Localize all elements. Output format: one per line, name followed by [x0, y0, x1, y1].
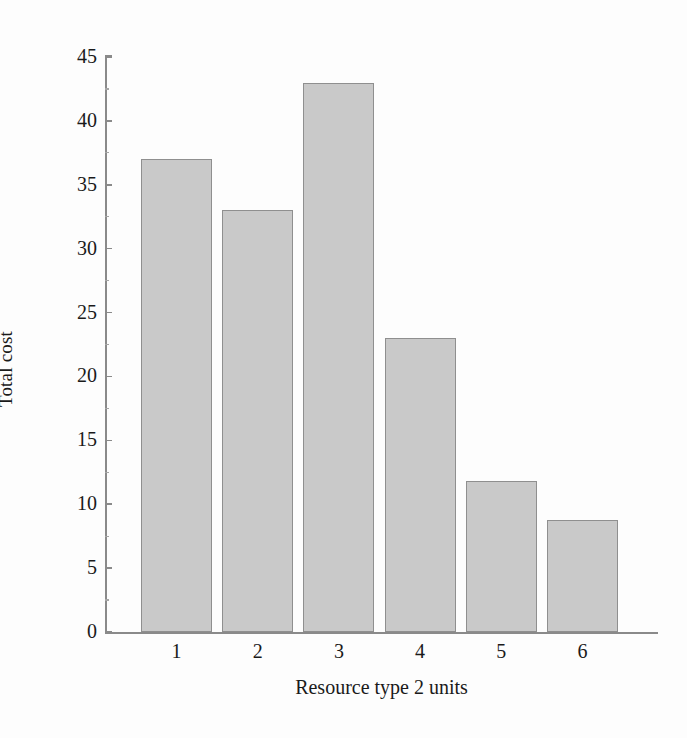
y-axis-title: Total cost	[0, 0, 40, 738]
bar	[466, 481, 537, 632]
x-axis-line	[105, 632, 658, 634]
y-tick-label: 5	[37, 557, 97, 577]
y-tick-label: 25	[37, 302, 97, 322]
x-tick-label: 3	[303, 640, 374, 662]
y-tick-label: 35	[37, 174, 97, 194]
x-tick-label: 5	[466, 640, 537, 662]
y-tick-label: 10	[37, 493, 97, 513]
x-tick-label: 4	[385, 640, 456, 662]
bar	[141, 159, 212, 632]
x-axis-title: Resource type 2 units	[105, 676, 658, 699]
bar	[385, 338, 456, 632]
y-tick-label: 15	[37, 429, 97, 449]
y-tick-label: 20	[37, 365, 97, 385]
bar	[303, 83, 374, 632]
bars-layer	[105, 57, 658, 632]
x-tick-label: 1	[141, 640, 212, 662]
y-tick-label: 40	[37, 110, 97, 130]
y-tick-label: 45	[37, 46, 97, 66]
y-tick-label: 30	[37, 238, 97, 258]
bar	[222, 210, 293, 632]
x-tick-label: 6	[547, 640, 618, 662]
bar-chart: Total cost 051015202530354045 123456 Res…	[0, 0, 687, 738]
bar	[547, 520, 618, 632]
y-tick-label: 0	[37, 621, 97, 641]
x-tick-label: 2	[222, 640, 293, 662]
